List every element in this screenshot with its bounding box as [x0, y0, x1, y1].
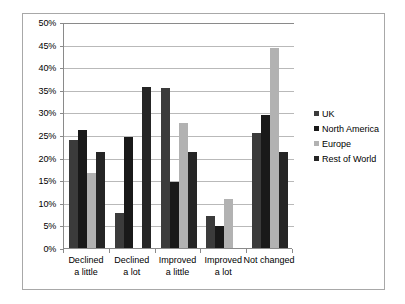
bar — [78, 130, 87, 248]
x-axis-tick-label-line: Not changed — [240, 255, 298, 267]
x-axis-tick — [155, 249, 156, 253]
bar-group — [69, 23, 105, 248]
bar — [179, 123, 188, 248]
plot-area — [63, 23, 292, 249]
legend-item[interactable]: North America — [314, 121, 386, 136]
legend-swatch-icon — [314, 111, 319, 116]
bar-group — [115, 23, 151, 248]
bar — [215, 226, 224, 248]
chart-figure: 0%5%10%15%20%25%30%35%40%45%50% Declined… — [22, 13, 385, 290]
y-axis-tick-label: 40% — [39, 63, 56, 73]
x-axis-tick — [109, 249, 110, 253]
bar-group — [161, 23, 197, 248]
legend-item[interactable]: UK — [314, 106, 386, 121]
bar — [224, 199, 233, 248]
y-axis-tick-label: 15% — [39, 176, 56, 186]
x-axis-tick — [63, 249, 64, 253]
x-axis-tick-label: Not changed — [240, 255, 298, 267]
y-axis-tick-label: 35% — [39, 86, 56, 96]
x-axis-tick-labels: Declineda littleDeclineda lotImproveda l… — [63, 255, 295, 287]
bar — [270, 48, 279, 248]
y-axis-tick-label: 10% — [39, 199, 56, 209]
legend-label: Rest of World — [322, 154, 376, 164]
y-axis-tick-label: 50% — [39, 18, 56, 28]
x-axis-tick — [246, 249, 247, 253]
bar-group — [206, 23, 242, 248]
x-axis-tick — [292, 249, 293, 253]
x-axis-tick — [200, 249, 201, 253]
bar — [96, 152, 105, 248]
bar — [170, 182, 179, 248]
y-axis-tick-label: 25% — [39, 131, 56, 141]
bar — [87, 173, 96, 248]
x-axis-tick-label-line: a lot — [194, 267, 252, 279]
legend-swatch-icon — [314, 141, 319, 146]
y-axis-tick-label: 45% — [39, 41, 56, 51]
bars-layer — [64, 23, 292, 248]
bar — [252, 133, 261, 248]
y-axis-tick-label: 5% — [43, 221, 56, 231]
y-axis-tick-label: 0% — [43, 244, 56, 254]
legend-item[interactable]: Rest of World — [314, 151, 386, 166]
bar-group — [252, 23, 288, 248]
legend-swatch-icon — [314, 126, 319, 131]
bar — [115, 213, 124, 248]
bar — [161, 88, 170, 248]
y-axis-tick-label: 30% — [39, 108, 56, 118]
legend-label: UK — [322, 109, 335, 119]
bar — [142, 87, 151, 248]
x-axis-tick-marks — [63, 249, 292, 254]
bar — [69, 140, 78, 248]
bar — [206, 216, 215, 248]
y-axis-tick-label: 20% — [39, 154, 56, 164]
legend-label: Europe — [322, 139, 351, 149]
y-axis-tick-labels: 0%5%10%15%20%25%30%35%40%45%50% — [23, 23, 59, 249]
bar — [124, 137, 133, 248]
legend-label: North America — [322, 124, 379, 134]
bar — [279, 152, 288, 248]
bar — [261, 115, 270, 248]
legend-swatch-icon — [314, 156, 319, 161]
bar — [188, 152, 197, 248]
legend-item[interactable]: Europe — [314, 136, 386, 151]
chart-legend: UKNorth AmericaEuropeRest of World — [314, 106, 386, 166]
